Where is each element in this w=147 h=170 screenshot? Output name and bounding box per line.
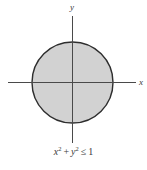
formula-relation-operator: ≤ <box>81 146 87 157</box>
formula-term1-exponent: 2 <box>58 145 61 152</box>
x-axis-label: x <box>139 78 143 87</box>
y-axis-label: y <box>70 3 74 12</box>
formula-plus-operator: + <box>63 146 69 157</box>
inequality-formula: x2+y2≤1 <box>0 146 147 158</box>
formula-term2-exponent: 2 <box>76 145 79 152</box>
formula-rhs: 1 <box>88 146 93 157</box>
unit-disk-figure: y x x2+y2≤1 <box>0 0 147 170</box>
figure-canvas <box>0 0 147 170</box>
